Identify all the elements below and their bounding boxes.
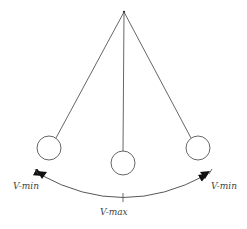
left-string: [56, 12, 124, 138]
swing-arc: [41, 175, 206, 198]
v-min-right-label: V-min: [211, 181, 237, 191]
center-string: [123, 12, 124, 151]
v-min-left-label: V-min: [13, 181, 39, 191]
center-bob: [111, 151, 135, 175]
right-string: [124, 12, 191, 138]
right-bob: [186, 136, 210, 160]
v-max-label: V-max: [100, 207, 128, 217]
left-bob: [37, 136, 61, 160]
pendulum-diagram: V-min V-min V-max: [0, 0, 247, 229]
